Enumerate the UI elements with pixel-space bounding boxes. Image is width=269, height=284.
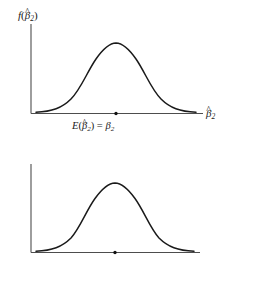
beta-subscript-xend: 2 <box>211 112 215 121</box>
beta-subscript-top: 2 <box>30 14 34 23</box>
mean-marker-top <box>114 112 117 115</box>
y-axis-function-label-top: f(^β2) <box>18 10 38 21</box>
x-axis-end-label-top: ^β2 <box>206 108 215 119</box>
annot-equals-sign: = <box>97 120 103 131</box>
beta-subscript-rhs: 2 <box>111 125 115 133</box>
annot-close-paren: ) <box>91 120 95 131</box>
plot-area-top <box>0 0 269 142</box>
panel-standard-normal: f(Z) Density 0 Z = ^β2−β2 σ^β2 <box>0 142 269 284</box>
normal-distribution-figure: f(^β2) Density ^β2 E(^β2) = β2 f(Z) Dens… <box>0 0 269 284</box>
mean-annotation-top: E(^β2) = β2 <box>72 121 114 132</box>
fn-close-paren-top: ) <box>34 9 38 21</box>
density-curve-top <box>36 43 196 112</box>
density-curve-bottom <box>36 183 194 251</box>
beta-glyph-rhs: β <box>105 120 110 131</box>
beta-subscript-annot: 2 <box>87 125 91 133</box>
panel-sampling-distribution: f(^β2) Density ^β2 E(^β2) = β2 <box>0 0 269 142</box>
mean-marker-bottom <box>113 251 116 254</box>
plot-area-bottom <box>0 142 269 284</box>
